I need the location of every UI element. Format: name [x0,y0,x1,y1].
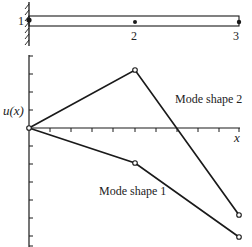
node-1-label: 1 [18,14,24,28]
plot-axes [29,55,240,247]
node-1-dot [26,17,31,22]
mode-shape-1-label: Mode shape 1 [99,184,166,198]
mode1-point-2 [133,161,138,166]
node-3-label: 3 [233,29,239,43]
beam-schematic: 1 2 3 [18,2,241,46]
node-2-label: 2 [131,29,137,43]
mode2-point-3 [237,213,242,218]
node-2-dot [133,20,137,24]
mode-shape-2-label: Mode shape 2 [175,92,242,106]
mode2-point-2 [133,68,138,73]
x-axis-label: x [233,130,240,145]
node-3-dot [237,20,241,24]
origin-point [27,126,32,131]
mode1-point-3 [237,235,242,240]
mode-shape-diagram: 1 2 3 [0,0,252,247]
y-axis-label: u(x) [3,103,24,118]
x-axis-ticks [50,128,239,132]
